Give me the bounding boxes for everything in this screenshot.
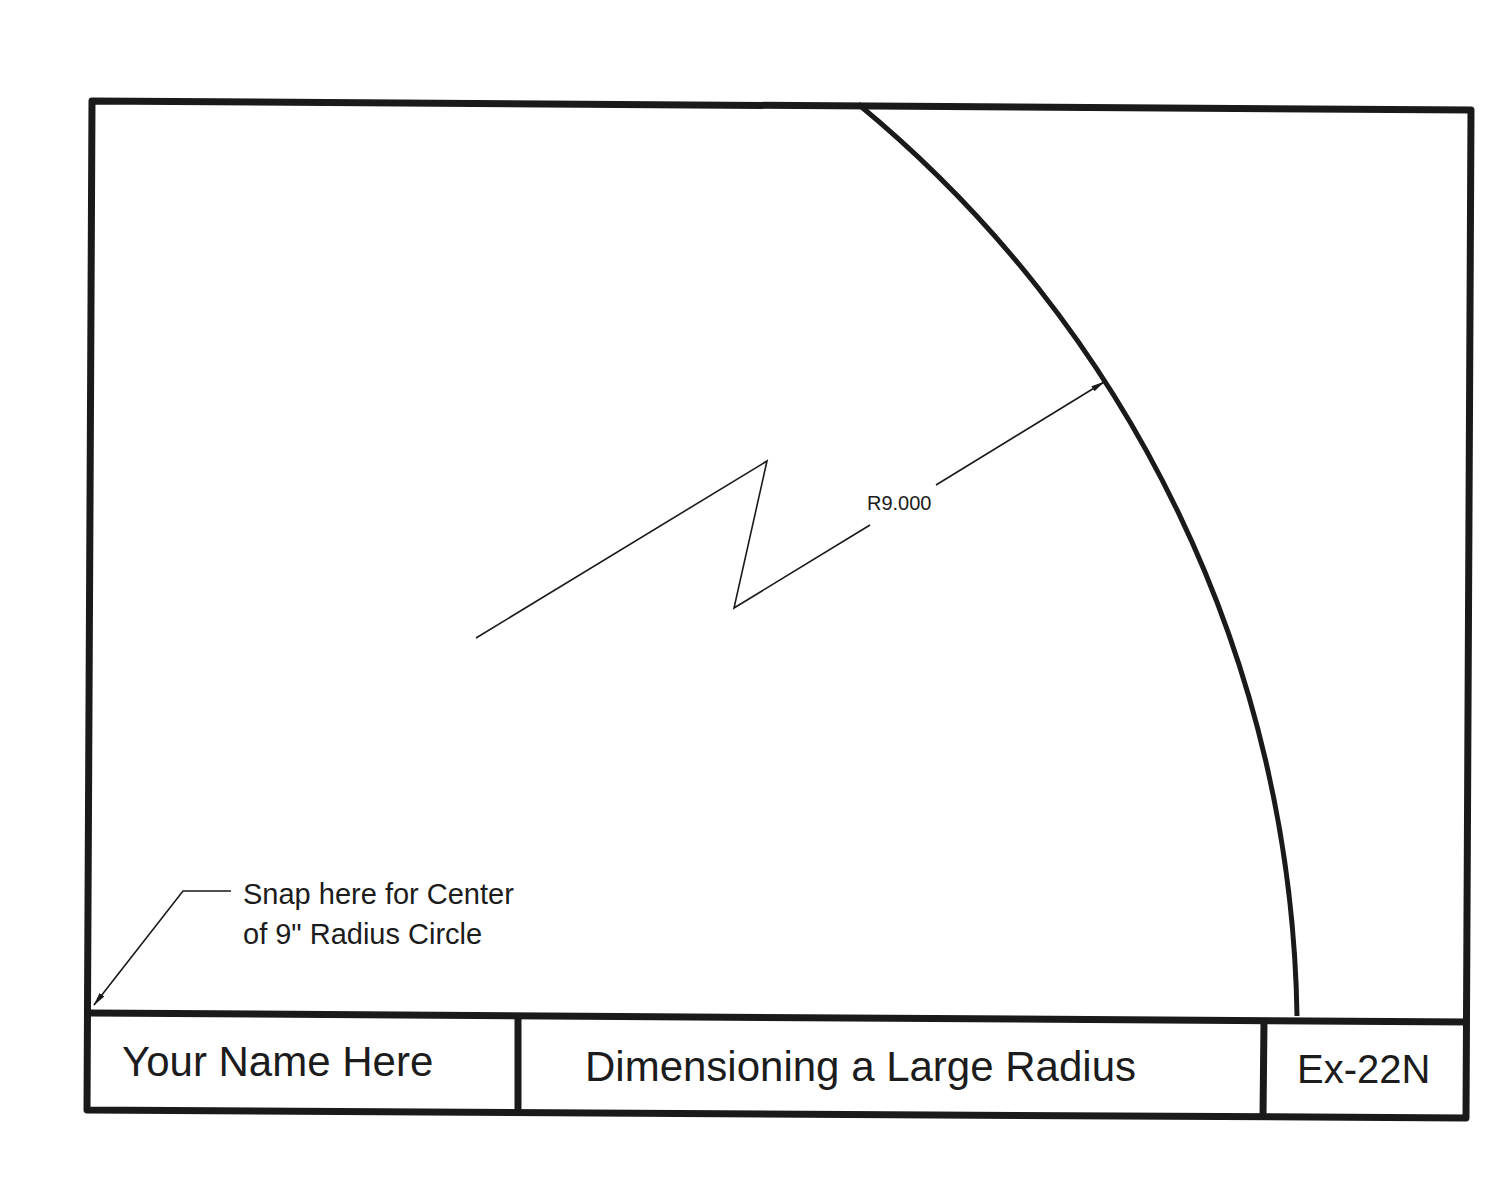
large-radius-arc	[858, 104, 1297, 1016]
radius-dimension-label: R9.000	[867, 492, 932, 515]
title-block-exercise-number: Ex-22N	[1297, 1047, 1430, 1092]
snap-note-line-1: Snap here for Center	[243, 874, 514, 914]
jogged-dimension-line	[476, 461, 870, 638]
title-block-name: Your Name Here	[122, 1038, 433, 1086]
technical-drawing	[0, 0, 1508, 1184]
drawing-border	[87, 101, 1471, 1118]
title-block-title: Dimensioning a Large Radius	[585, 1043, 1136, 1091]
snap-note: Snap here for Center of 9" Radius Circle	[243, 874, 514, 954]
snap-note-line-2: of 9" Radius Circle	[243, 914, 514, 954]
title-block-divider-2	[1263, 1021, 1264, 1116]
snap-note-leader	[94, 891, 231, 1005]
dimension-arrow-line	[936, 382, 1104, 485]
title-block-top-line	[90, 1013, 1468, 1022]
